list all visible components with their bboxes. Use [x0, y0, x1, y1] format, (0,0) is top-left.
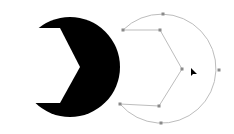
anchor-point-lower-inner[interactable]: [158, 105, 161, 108]
filled-crescent-shape[interactable]: [20, 17, 120, 117]
anchor-point-lower-left[interactable]: [119, 103, 122, 106]
selected-path-outline[interactable]: [120, 14, 216, 123]
anchor-point-upper-left[interactable]: [122, 29, 125, 32]
anchor-point-upper-inner[interactable]: [159, 29, 162, 32]
editor-canvas[interactable]: [0, 0, 234, 134]
anchor-point-bottom[interactable]: [160, 122, 163, 125]
anchor-point-top[interactable]: [162, 13, 165, 16]
anchor-point-tip[interactable]: [181, 68, 184, 71]
path-anchor-points: [119, 13, 221, 125]
anchor-point-right[interactable]: [218, 69, 221, 72]
arrow-cursor-icon: [191, 68, 197, 76]
